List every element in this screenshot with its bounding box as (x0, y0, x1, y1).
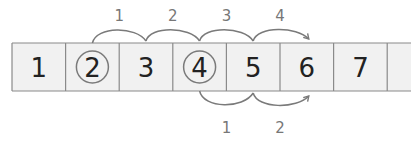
top-jump-label: 4 (275, 7, 285, 25)
top-jump-arc (92, 30, 146, 43)
bottom-jump-label: 2 (275, 119, 285, 137)
top-jump-arc (200, 30, 254, 41)
cell-number-1: 1 (31, 53, 48, 83)
top-jump-arc (146, 30, 200, 41)
bottom-jump-arc (200, 91, 254, 105)
top-jump-label: 1 (114, 7, 124, 25)
cell-number-4: 4 (191, 53, 208, 83)
top-jump-label: 2 (168, 7, 178, 25)
number-track-diagram: 1234567 123412 (0, 0, 419, 143)
number-track: 1234567 (12, 43, 411, 91)
cell-number-7: 7 (352, 53, 369, 83)
cell-number-3: 3 (138, 53, 155, 83)
cell-number-5: 5 (245, 53, 262, 83)
cell-number-6: 6 (299, 53, 316, 83)
top-jump-arc (253, 29, 309, 41)
bottom-jump-label: 1 (222, 119, 232, 137)
bottom-jump-arc (253, 93, 309, 105)
cell-number-2: 2 (84, 53, 101, 83)
top-jump-label: 3 (222, 7, 232, 25)
